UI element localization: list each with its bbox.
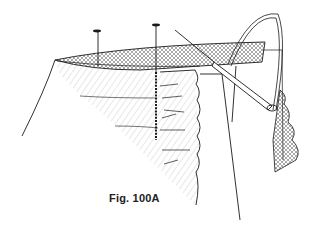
right-fabric-strip [273,90,298,172]
figure-caption: Fig. 100A [109,192,160,204]
sewing-illustration [0,0,325,235]
guide-lines [200,66,240,220]
fabric-body [22,60,200,205]
